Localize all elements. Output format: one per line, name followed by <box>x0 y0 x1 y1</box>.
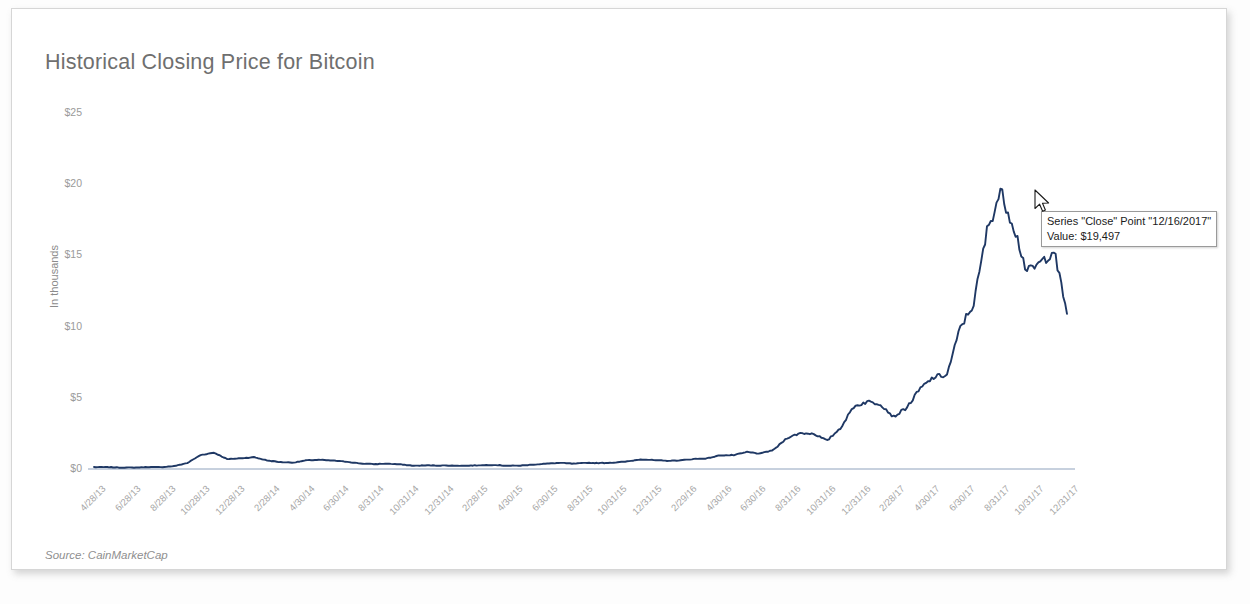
x-axis-ticks: 4/28/136/28/138/28/1310/28/1312/28/132/2… <box>12 9 1228 571</box>
plot-area: $0$5$10$15$20$25 4/28/136/28/138/28/1310… <box>12 9 1228 571</box>
source-note: Source: CainMarketCap <box>45 549 168 561</box>
chart-card: Historical Closing Price for Bitcoin In … <box>11 8 1227 570</box>
tooltip-series-line: Series "Close" Point "12/16/2017" <box>1047 214 1211 229</box>
screenshot-root: Historical Closing Price for Bitcoin In … <box>0 0 1250 604</box>
mouse-cursor-icon <box>1034 189 1052 215</box>
tooltip-value-line: Value: $19,497 <box>1047 229 1211 244</box>
datapoint-tooltip: Series "Close" Point "12/16/2017" Value:… <box>1041 211 1217 247</box>
